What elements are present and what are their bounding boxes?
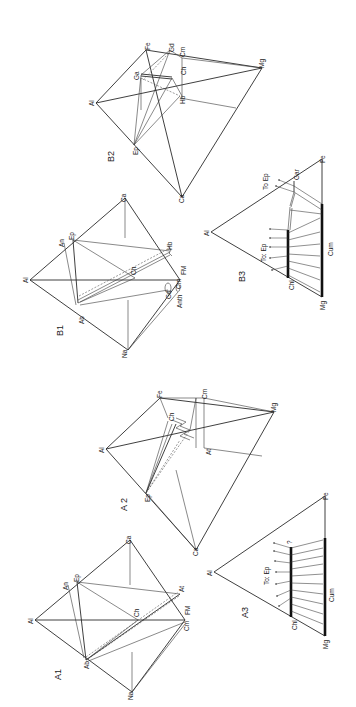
a3-fe-label: Fe bbox=[322, 492, 329, 500]
b3-al-label: Al bbox=[203, 230, 210, 236]
b2-ch-label: Ch bbox=[180, 66, 187, 75]
b2-ep-label: Ep bbox=[132, 147, 140, 155]
a1-ca-label: Ca bbox=[125, 535, 132, 544]
b2-hb-label: Hb bbox=[179, 95, 186, 104]
b3-to-ep-upper: To Ep bbox=[262, 173, 270, 190]
a2-ep-label: Ep bbox=[144, 494, 152, 502]
b2-fe-label: Fe bbox=[144, 42, 151, 50]
a2-ca-label: Ca bbox=[192, 547, 199, 556]
a1-cm-label: Cm bbox=[183, 621, 190, 631]
b2-gd-label: Gd bbox=[168, 43, 175, 52]
b1-ep-label: Ep bbox=[68, 232, 76, 240]
b1-ab-label: Ab bbox=[78, 316, 85, 324]
b2-mg-label: Mg bbox=[258, 59, 266, 68]
a2-ch-label: Ch bbox=[168, 412, 175, 421]
panel-a3-triangle bbox=[214, 496, 325, 636]
b1-an-label: An bbox=[58, 239, 65, 247]
panel-b2-tetrahedron bbox=[96, 50, 262, 197]
panel-b1-label: B1 bbox=[55, 325, 65, 336]
a3-mg-label: Mg bbox=[322, 640, 330, 649]
a2-fe-label: Fe bbox=[156, 390, 163, 398]
b2-ga-label: Ga bbox=[133, 71, 140, 80]
panel-b3-label: B3 bbox=[237, 271, 247, 282]
b3-cum-label: Cum bbox=[327, 242, 334, 256]
b2-al-label: Al bbox=[88, 100, 95, 106]
b3-gar-label: Gar bbox=[293, 168, 300, 180]
b1-hb-label: Hb bbox=[166, 241, 173, 250]
a1-ab-label: Ab bbox=[83, 661, 90, 669]
panel-a2-tetrahedron bbox=[106, 398, 274, 550]
b3-mg-label: Mg bbox=[319, 301, 327, 310]
b1-anth-label: Anth bbox=[176, 294, 183, 308]
a1-an-label: An bbox=[62, 582, 69, 590]
a2-cm-label: Cm bbox=[201, 389, 208, 399]
a2-mg-label: Mg bbox=[270, 403, 278, 412]
panel-a1-label: A1 bbox=[53, 669, 63, 680]
b1-cm-label: Cm bbox=[175, 279, 182, 289]
a3-al-label: Al bbox=[206, 570, 213, 576]
panel-b2-label: B2 bbox=[106, 151, 116, 162]
b1-fm-label: FM bbox=[180, 266, 187, 275]
b1-ch-label: Ch bbox=[130, 266, 137, 275]
b3-fe-label: Fe bbox=[319, 155, 326, 163]
b1-gd-label: Gd bbox=[165, 290, 172, 299]
petrologic-phase-diagram-figure: Al Ca Na FM Cm An Ep Ab Ch Hb Gd Anth B1… bbox=[0, 0, 356, 707]
a3-question-mark: ? bbox=[286, 540, 293, 544]
a1-at-label: At bbox=[178, 586, 185, 592]
a1-na-label: Na bbox=[127, 691, 134, 700]
a2-al-label: Al bbox=[98, 447, 105, 453]
b3-to-ep-lower: To: Ep bbox=[260, 243, 268, 262]
a3-chl-label: Chl bbox=[291, 620, 298, 630]
a3-cum-label: Cum bbox=[328, 588, 335, 602]
b1-na-label: Na bbox=[121, 349, 128, 358]
b2-cm-label: Cm bbox=[179, 47, 186, 57]
a1-ep-label: Ep bbox=[73, 574, 81, 582]
a1-ch-label: Ch bbox=[133, 608, 140, 617]
b2-ca-label: Ca bbox=[178, 194, 185, 203]
panel-a2-label: A 2 bbox=[119, 498, 129, 511]
panel-b1-tetrahedron bbox=[30, 198, 180, 350]
panel-a3-label: A3 bbox=[240, 607, 250, 618]
b3-chl-label: Chl bbox=[288, 280, 295, 290]
a1-al-label: Al bbox=[27, 618, 34, 624]
a2-at-label: At bbox=[205, 449, 212, 455]
b1-ca-label: Ca bbox=[120, 193, 127, 202]
a3-to-ep-label: To: Ep bbox=[263, 566, 271, 585]
b1-al-label: Al bbox=[22, 277, 29, 283]
a1-fm-label: FM bbox=[184, 606, 191, 615]
